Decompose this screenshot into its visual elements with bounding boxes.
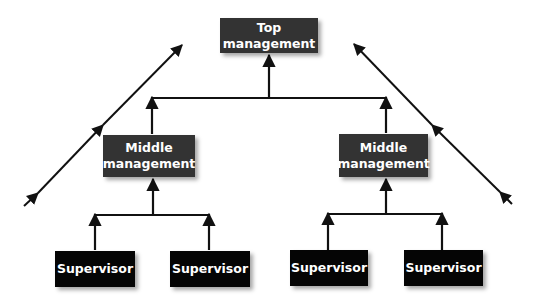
supervisor-box-2: Supervisor	[170, 251, 250, 287]
supervisor-box-4: Supervisor	[404, 250, 483, 286]
supervisor-label-3: Supervisor	[291, 260, 367, 276]
middle-management-left-box: Middle management	[103, 135, 195, 177]
tree-connectors-left	[95, 179, 209, 250]
supervisor-label-4: Supervisor	[405, 260, 481, 276]
supervisor-box-3: Supervisor	[290, 250, 368, 286]
supervisor-label-2: Supervisor	[172, 261, 248, 277]
top-management-label: Top management	[223, 20, 316, 52]
tree-connectors-top	[152, 55, 387, 134]
supervisor-label-1: Supervisor	[57, 261, 133, 277]
middle-management-right-label: Middle management	[337, 140, 430, 172]
tree-connectors-right	[328, 179, 442, 250]
middle-management-right-box: Middle management	[339, 134, 428, 177]
middle-management-left-label: Middle management	[103, 140, 196, 172]
right-diagonal-arrow	[354, 44, 512, 204]
left-diagonal-arrow	[24, 45, 182, 206]
top-management-box: Top management	[220, 18, 318, 53]
supervisor-box-1: Supervisor	[55, 251, 135, 287]
